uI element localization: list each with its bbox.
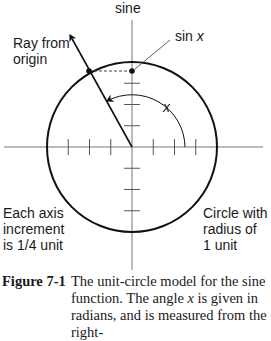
circle-label-line2: radius of: [203, 221, 268, 237]
sine-point: [129, 68, 135, 74]
increment-label-line2: increment: [3, 221, 64, 237]
angle-label: x: [163, 99, 170, 115]
sin-label-var: x: [197, 28, 204, 44]
intersection-point: [86, 68, 92, 74]
increment-label: Each axis increment is 1/4 unit: [3, 205, 64, 253]
axis-label-sine: sine: [115, 0, 141, 16]
caption-line1: The unit-circle model for the sine: [71, 273, 271, 290]
increment-label-line3: is 1/4 unit: [3, 237, 64, 253]
caption-text: The unit-circle model for the sine funct…: [71, 273, 271, 341]
angle-arc: [107, 95, 185, 147]
increment-label-line1: Each axis: [3, 205, 64, 221]
circle-label: Circle with radius of 1 unit: [203, 205, 268, 253]
ray-label-line1: Ray from: [13, 35, 70, 51]
sin-x-label: sin x: [175, 28, 204, 44]
angle-label-var: x: [163, 99, 170, 115]
caption-label: Figure 7-1: [2, 273, 66, 290]
sin-label-prefix: sin: [175, 28, 197, 44]
ray-label: Ray from origin: [13, 35, 70, 67]
ray-label-line2: origin: [13, 51, 70, 67]
circle-label-line3: 1 unit: [203, 237, 268, 253]
ray-from-origin: [70, 35, 132, 147]
caption-line2: function. The angle x is given in: [71, 290, 271, 307]
caption-line3: radians, and is measured from the right-: [71, 307, 271, 341]
caption-line2-pre: function. The angle: [71, 290, 188, 306]
caption-line2-post: is given in: [194, 290, 258, 306]
circle-label-line1: Circle with: [203, 205, 268, 221]
